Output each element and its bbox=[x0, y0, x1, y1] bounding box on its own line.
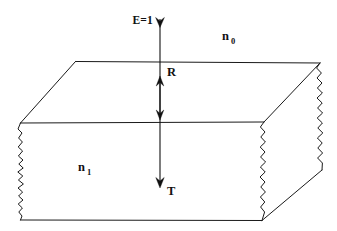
slab-broken-edge-left bbox=[18, 123, 24, 220]
figure-root: E=1 R T n 0 n 1 bbox=[0, 0, 337, 231]
medium-inner-subscript: 1 bbox=[87, 167, 91, 177]
reflected-ray-label: R bbox=[167, 65, 177, 79]
incident-ray-label: E=1 bbox=[132, 14, 153, 26]
slab-optics-diagram: E=1 R T n 0 n 1 bbox=[0, 0, 337, 231]
slab-broken-edge-right-inner bbox=[260, 122, 266, 221]
slab-broken-edge-right-outer bbox=[317, 63, 323, 170]
reflected-ray-group: R bbox=[156, 65, 177, 120]
slab-top-right-edge bbox=[264, 63, 320, 122]
medium-label-inner: n 1 bbox=[78, 160, 91, 177]
medium-label-outer: n 0 bbox=[222, 29, 235, 46]
slab-top-left-edge bbox=[21, 62, 76, 124]
slab-top-back-edge bbox=[76, 62, 321, 64]
medium-inner-base: n bbox=[78, 160, 85, 174]
transmitted-ray-group: T bbox=[156, 122, 176, 198]
transmitted-ray-label: T bbox=[167, 184, 176, 198]
slab-bottom-right-edge bbox=[262, 170, 322, 221]
medium-outer-base: n bbox=[222, 29, 229, 43]
slab-interface-line bbox=[21, 122, 265, 123]
medium-outer-subscript: 0 bbox=[231, 36, 235, 46]
slab-bottom-front-edge bbox=[21, 220, 263, 221]
